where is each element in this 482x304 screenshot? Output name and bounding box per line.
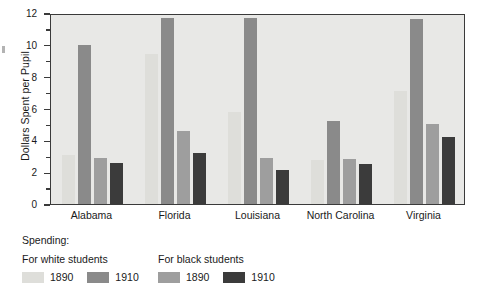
x-axis-category-label: Virginia [382,209,465,221]
y-tick-label: 0 [15,200,37,210]
x-axis-category-label: Louisiana [216,209,299,221]
y-tick-label: 8 [15,73,37,83]
legend-label: 1910 [251,271,274,283]
x-axis-category-label: Florida [133,209,216,221]
y-tick-label: 4 [15,136,37,146]
y-tick-label: 10 [15,41,37,51]
bar [426,124,439,204]
legend-column-header: For black students [158,253,294,265]
bar [442,137,455,204]
legend-entry: 1910 [223,271,274,283]
legend: Spending: For white students18901910For … [22,234,294,283]
bar [78,45,91,204]
bar-group [228,15,289,204]
x-axis-category-label: Alabama [50,209,133,221]
y-tick-label: 2 [15,168,37,178]
legend-row: 18901910 [22,271,158,283]
legend-swatch [87,272,109,283]
bar [228,112,241,204]
x-axis-category-label: North Carolina [299,209,382,221]
y-tick-label: 12 [15,9,37,19]
y-tick-label: 6 [15,105,37,115]
bar [311,160,324,204]
bar [177,131,190,204]
legend-column: For white students18901910 [22,253,158,283]
bar-group [394,15,455,204]
bar [260,158,273,204]
bar-group [145,15,206,204]
bar-group [62,15,123,204]
bar [276,170,289,204]
bar [394,91,407,204]
bar [94,158,107,204]
bar [343,159,356,204]
legend-label: 1890 [50,271,73,283]
bar [161,18,174,204]
legend-label: 1910 [115,271,138,283]
bar [359,164,372,204]
legend-swatch [158,272,180,283]
legend-swatch [223,272,245,283]
bar [145,54,158,204]
bar [327,121,340,204]
legend-swatch [22,272,44,283]
legend-entry: 1890 [158,271,209,283]
legend-entry: 1910 [87,271,138,283]
bar [410,19,423,204]
bar-group [311,15,372,204]
bar [110,163,123,204]
bars-container [51,15,464,204]
bar [193,153,206,204]
bar [62,155,75,204]
legend-entry: 1890 [22,271,73,283]
legend-columns: For white students18901910For black stud… [22,253,294,283]
plot-area [50,14,465,205]
legend-column-header: For white students [22,253,158,265]
legend-title: Spending: [22,234,294,246]
legend-column: For black students18901910 [158,253,294,283]
bar [244,18,257,204]
legend-label: 1890 [186,271,209,283]
legend-row: 18901910 [158,271,294,283]
